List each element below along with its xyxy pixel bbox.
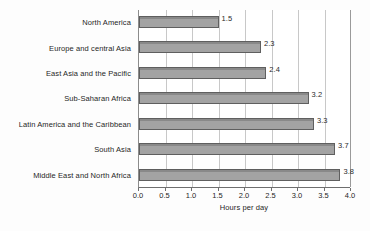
tick-label: 3.5	[318, 191, 329, 200]
category-label: South Asia	[94, 145, 134, 154]
category-label: Europe and central Asia	[49, 44, 134, 53]
tick-label: 0.0	[133, 191, 144, 200]
bar	[139, 67, 266, 79]
bar-chart: North America Europe and central Asia Ea…	[0, 0, 370, 231]
bar-row: 3.7	[139, 137, 350, 162]
bar-rows: 1.5 2.3 2.4 3.2 3.3 3.7	[139, 10, 350, 187]
bar	[139, 118, 314, 130]
tick-label: 2.5	[265, 191, 276, 200]
bar-row: 2.4	[139, 61, 350, 86]
bar	[139, 16, 219, 28]
bar	[139, 143, 335, 155]
category-label-row: Europe and central Asia	[0, 35, 134, 60]
category-label: Latin America and the Caribbean	[19, 120, 134, 129]
category-label-row: Middle East and North Africa	[0, 163, 134, 188]
category-label-row: North America	[0, 10, 134, 35]
bar-value-label: 2.3	[264, 39, 275, 48]
bar-row: 2.3	[139, 35, 350, 60]
plot-area: 1.5 2.3 2.4 3.2 3.3 3.7	[138, 10, 350, 188]
category-label-row: East Asia and the Pacific	[0, 61, 134, 86]
tick-label: 3.0	[292, 191, 303, 200]
category-label: North America	[82, 18, 134, 27]
category-label-row: South Asia	[0, 137, 134, 162]
category-label: Sub-Saharan Africa	[64, 94, 134, 103]
category-label: Middle East and North Africa	[33, 171, 134, 180]
bar-value-label: 2.4	[269, 65, 280, 74]
bar	[139, 41, 261, 53]
category-label-row: Latin America and the Caribbean	[0, 112, 134, 137]
bar-row: 3.3	[139, 112, 350, 137]
bar-value-label: 1.5	[222, 14, 233, 23]
bar-row: 1.5	[139, 10, 350, 35]
x-axis-title: Hours per day	[138, 203, 350, 212]
gridline-right-edge	[350, 10, 351, 187]
tick-label: 0.5	[159, 191, 170, 200]
tick-label: 1.0	[186, 191, 197, 200]
tick-label: 2.0	[239, 191, 250, 200]
category-label: East Asia and the Pacific	[46, 69, 134, 78]
category-label-row: Sub-Saharan Africa	[0, 86, 134, 111]
bar	[139, 92, 309, 104]
bar-value-label: 3.2	[312, 90, 323, 99]
bar-row: 3.8	[139, 163, 350, 188]
tick-label: 4.0	[345, 191, 356, 200]
bar-value-label: 3.8	[343, 167, 354, 176]
category-axis-labels: North America Europe and central Asia Ea…	[0, 10, 134, 188]
bar	[139, 169, 340, 181]
tick-label: 1.5	[212, 191, 223, 200]
bar-value-label: 3.7	[338, 141, 349, 150]
bar-row: 3.2	[139, 86, 350, 111]
bar-value-label: 3.3	[317, 116, 328, 125]
